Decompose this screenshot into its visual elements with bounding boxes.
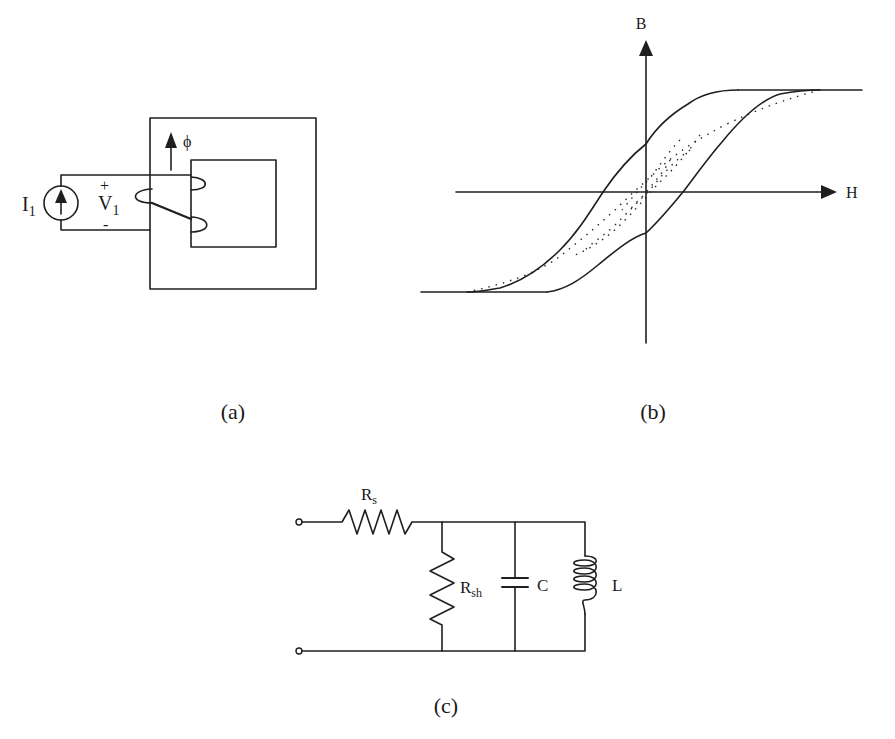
panel-b-hysteresis: B H (b) bbox=[421, 15, 862, 424]
flux-arrow-icon bbox=[165, 132, 177, 170]
voltage-label: V1 bbox=[98, 192, 119, 218]
caption-b: (b) bbox=[640, 399, 666, 424]
caption-a: (a) bbox=[221, 399, 245, 424]
core-window bbox=[191, 160, 276, 247]
panel-a-core-circuit: I1 + V1 - ϕ (a) bbox=[22, 118, 316, 424]
major-loop-lower-branch bbox=[547, 90, 820, 292]
figure-canvas: I1 + V1 - ϕ (a) B H (b) bbox=[0, 0, 895, 739]
b-axis-label: B bbox=[636, 15, 647, 32]
coil-turn-bottom bbox=[191, 217, 207, 232]
series-resistor-label: Rs bbox=[361, 485, 377, 507]
inductor-label: L bbox=[612, 576, 622, 595]
source-label: I1 bbox=[22, 193, 36, 219]
coil-turn-top bbox=[191, 177, 205, 190]
series-resistor-icon bbox=[302, 510, 585, 556]
wire-top bbox=[61, 175, 191, 186]
terminal-top bbox=[296, 519, 302, 525]
minor-loop-1 bbox=[467, 90, 820, 292]
b-axis-arrow-icon bbox=[639, 40, 653, 56]
h-axis-label: H bbox=[846, 184, 858, 201]
inductor-icon bbox=[574, 556, 597, 614]
caption-c: (c) bbox=[434, 693, 458, 718]
bottom-rail bbox=[302, 614, 585, 651]
flux-label: ϕ bbox=[183, 133, 191, 151]
h-axis-arrow-icon bbox=[821, 185, 837, 199]
panel-c-equivalent-circuit: Rs Rsh C L (c) bbox=[296, 485, 622, 718]
capacitor-icon bbox=[502, 522, 528, 651]
terminal-bottom bbox=[296, 648, 302, 654]
coil-crossing bbox=[152, 203, 191, 219]
minor-loop-5 bbox=[628, 160, 670, 212]
shunt-resistor-icon bbox=[430, 522, 454, 651]
minor-loop-4 bbox=[622, 140, 680, 210]
minor-loop-3 bbox=[585, 150, 690, 250]
capacitor-label: C bbox=[537, 576, 548, 595]
minus-sign: - bbox=[103, 216, 108, 233]
current-source-icon bbox=[44, 186, 78, 220]
shunt-resistor-label: Rsh bbox=[460, 578, 482, 600]
